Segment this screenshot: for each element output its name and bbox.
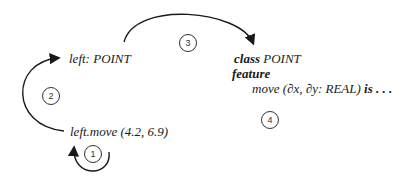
feature-keyword: feature [232,66,270,81]
routine-signature: move (∂x, ∂y: REAL) is . . . [252,81,392,96]
routine-sig: move (∂x, ∂y: REAL) [252,81,361,96]
step-4-badge: 4 [261,111,279,129]
left-declaration: left: POINT [69,51,131,66]
class-keyword: class [234,51,260,66]
is-keyword: is [364,81,373,96]
call-expression: left.move (4.2, 6.9) [70,124,168,139]
ellipsis: . . . [376,81,392,96]
step-1-badge: 1 [84,145,102,163]
step-2-badge: 2 [42,87,60,105]
class-name: POINT [263,51,301,66]
class-header: class POINT [234,51,301,66]
step-3-badge: 3 [179,34,197,52]
